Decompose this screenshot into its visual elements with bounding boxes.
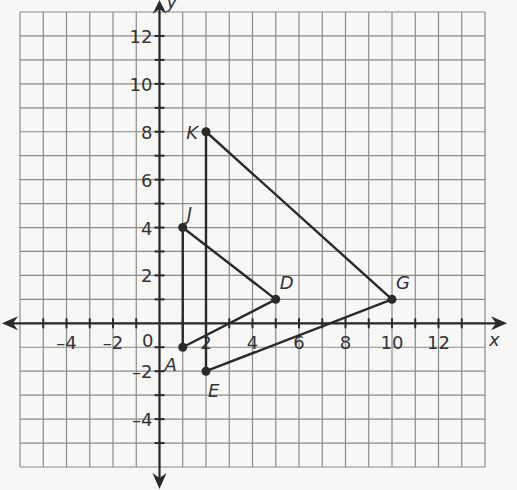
y-tick-label: –2	[132, 361, 152, 382]
point-a-marker	[178, 343, 187, 352]
point-a-label: A	[163, 354, 176, 375]
x-tick-label: –4	[56, 332, 76, 353]
point-k-label: K	[186, 122, 199, 143]
point-g-marker	[388, 295, 397, 304]
y-tick-label: 10	[130, 74, 153, 95]
y-tick-label: –4	[132, 409, 152, 430]
x-tick-label: 4	[247, 332, 258, 353]
x-tick-label: 10	[381, 332, 404, 353]
grid-lines	[20, 12, 485, 467]
point-g-label: G	[396, 272, 410, 293]
point-j-label: J	[184, 203, 192, 224]
points: ADJEGK	[163, 122, 410, 401]
x-tick-label: –2	[103, 332, 123, 353]
y-tick-label: 12	[130, 26, 153, 47]
y-axis-label: y	[166, 0, 178, 12]
point-d-marker	[271, 295, 280, 304]
x-axis-label: x	[488, 329, 500, 350]
y-tick-label: 2	[141, 265, 152, 286]
y-tick-label: 4	[141, 218, 152, 239]
tick-labels: xy–4–224681012–4–2246810120	[56, 0, 500, 430]
y-tick-label: 8	[141, 122, 152, 143]
coordinate-plane: xy–4–224681012–4–2246810120 ADJEGK	[0, 0, 517, 490]
axes	[2, 0, 507, 489]
origin-label: 0	[142, 330, 153, 351]
x-tick-label: 12	[427, 332, 450, 353]
point-e-label: E	[208, 380, 220, 401]
point-e-marker	[202, 367, 211, 376]
point-d-label: D	[280, 272, 294, 293]
point-j-marker	[178, 223, 187, 232]
y-tick-label: 6	[141, 170, 152, 191]
x-tick-label: 8	[340, 332, 351, 353]
point-k-marker	[202, 127, 211, 136]
